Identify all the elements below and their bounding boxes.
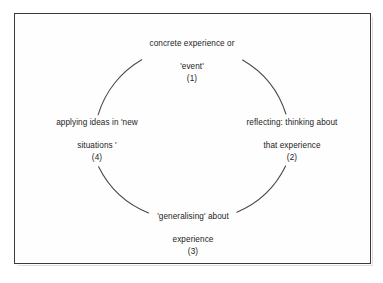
stage-2-line2: that experience [263, 141, 320, 150]
stage-3-number: (3) [123, 246, 263, 257]
stage-label-1: concrete experience or 'event' (1) [117, 27, 267, 95]
stage-1-line2: 'event' [180, 62, 204, 71]
diagram-canvas: concrete experience or 'event' (1) refle… [0, 0, 383, 283]
stage-label-3: 'generalising' about experience (3) [123, 200, 263, 268]
stage-4-number: (4) [27, 152, 167, 163]
stage-4-line2: situations ' [77, 141, 116, 150]
stage-label-2: reflecting: thinking about that experien… [222, 106, 362, 174]
stage-3-line2: experience [173, 235, 214, 244]
stage-1-number: (1) [117, 73, 267, 84]
stage-2-number: (2) [222, 152, 362, 163]
stage-label-4: applying ideas in 'new situations ' (4) [27, 106, 167, 174]
stage-3-line1: 'generalising' about [157, 212, 229, 221]
stage-4-line1: applying ideas in 'new [56, 118, 138, 127]
stage-1-line1: concrete experience or [149, 39, 234, 48]
stage-2-line1: reflecting: thinking about [247, 118, 338, 127]
